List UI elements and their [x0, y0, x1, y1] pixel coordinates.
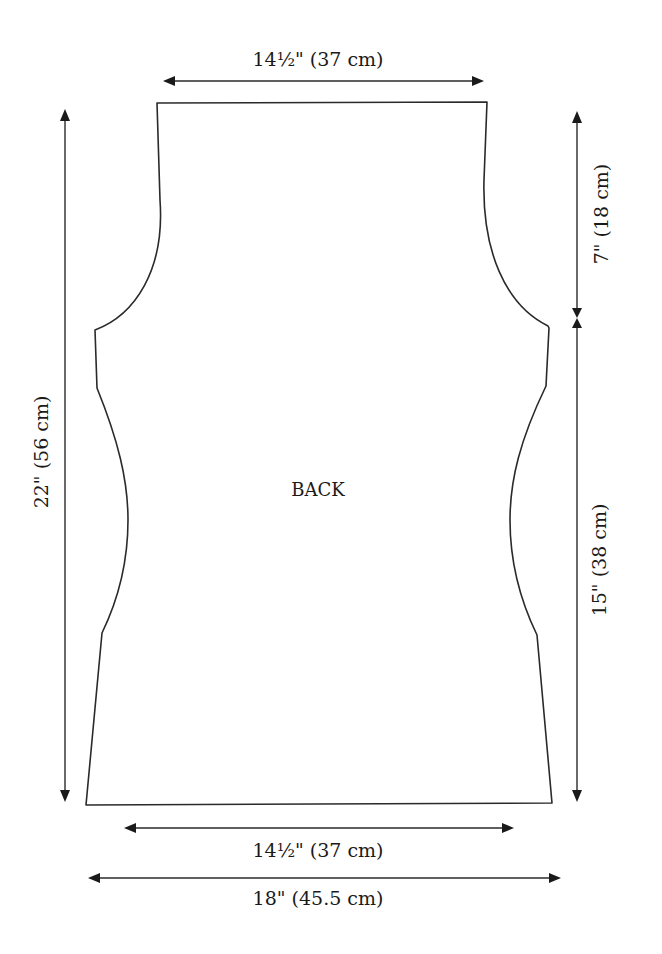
total-length-label: 22" (56 cm)	[30, 396, 52, 509]
arrow-up-icon	[572, 318, 582, 328]
top-width-dimension: 14½" (37 cm)	[163, 48, 484, 86]
piece-label: BACK	[291, 479, 345, 500]
arrow-left-icon	[124, 823, 136, 833]
hip-width-label: 18" (45.5 cm)	[253, 887, 384, 909]
back-piece-outline	[86, 102, 552, 805]
arrow-down-icon	[572, 790, 582, 802]
hip-width-dimension: 18" (45.5 cm)	[88, 873, 561, 909]
waist-width-dimension: 14½" (37 cm)	[124, 823, 514, 861]
arrow-right-icon	[472, 76, 484, 86]
waist-width-label: 14½" (37 cm)	[252, 839, 383, 861]
arrow-left-icon	[163, 76, 175, 86]
total-length-dimension: 22" (56 cm)	[30, 109, 70, 802]
arrow-up-icon	[60, 109, 70, 121]
side-length-dimension: 15" (38 cm)	[572, 318, 610, 802]
arrow-right-icon	[502, 823, 514, 833]
arrow-down-icon	[572, 308, 582, 318]
schematic-diagram: BACK 14½" (37 cm) 22" (56 cm) 7" (18 cm)…	[0, 0, 662, 954]
arrow-right-icon	[549, 873, 561, 883]
arrow-left-icon	[88, 873, 100, 883]
top-width-label: 14½" (37 cm)	[252, 48, 383, 70]
side-length-label: 15" (38 cm)	[588, 504, 610, 617]
armhole-depth-label: 7" (18 cm)	[590, 164, 612, 265]
arrow-down-icon	[60, 790, 70, 802]
arrow-up-icon	[572, 111, 582, 123]
armhole-depth-dimension: 7" (18 cm)	[572, 111, 612, 318]
